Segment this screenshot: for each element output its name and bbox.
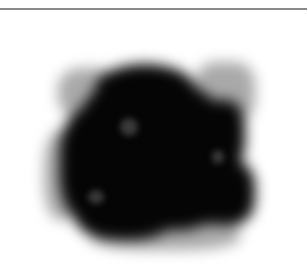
blob-highlight-lower-left (88, 190, 104, 204)
blob-highlight-upper (120, 118, 138, 136)
image-canvas (0, 0, 307, 270)
blob-lobe-bottom-right (165, 195, 230, 225)
blob-highlight-right (212, 150, 224, 164)
dark-blob (0, 0, 307, 270)
blob-lobe-top (95, 64, 195, 114)
